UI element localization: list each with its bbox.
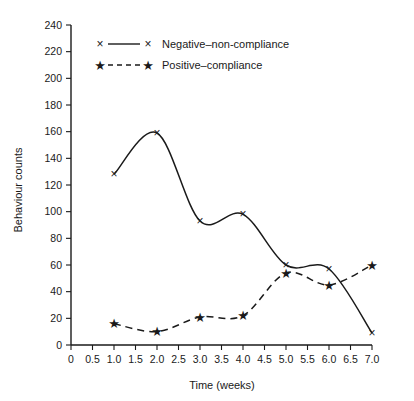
- x-tick-label: 2.0: [150, 353, 165, 365]
- chart-legend: ××Negative–non-compliance★★Positive–comp…: [94, 37, 289, 73]
- x-tick-label: 5.5: [300, 353, 315, 365]
- x-axis-title: Time (weeks): [189, 379, 255, 391]
- series-layer: ×××××××★★★★★★★: [108, 126, 378, 340]
- data-point-marker: ×: [368, 326, 375, 340]
- legend-label: Positive–compliance: [162, 59, 262, 71]
- x-tick-label: 6.5: [343, 353, 358, 365]
- x-tick-label: 5.0: [279, 353, 294, 365]
- data-point-marker: ★: [194, 310, 206, 325]
- chart-container: 020406080100120140160180200220240 00.51.…: [0, 0, 414, 401]
- legend-label: Negative–non-compliance: [162, 38, 289, 50]
- x-tick-label: 7.0: [365, 353, 380, 365]
- y-axis-tick-labels: 020406080100120140160180200220240: [44, 19, 62, 351]
- y-tick-label: 220: [44, 45, 62, 57]
- y-tick-label: 0: [56, 339, 62, 351]
- data-point-marker: ★: [151, 324, 163, 339]
- legend-entry: ××Negative–non-compliance: [96, 37, 289, 51]
- legend-marker-left: ×: [96, 37, 103, 51]
- y-tick-label: 200: [44, 72, 62, 84]
- x-axis-tick-labels: 00.51.01.52.02.53.03.54.04.55.05.56.06.5…: [68, 353, 379, 365]
- data-point-marker: ★: [280, 266, 292, 281]
- data-point-marker: ★: [108, 316, 120, 331]
- x-tick-label: 0: [68, 353, 74, 365]
- data-point-marker: ×: [153, 126, 160, 140]
- data-point-marker: ×: [239, 207, 246, 221]
- series-2: ★★★★★★★: [108, 258, 378, 340]
- x-tick-label: 2.5: [171, 353, 186, 365]
- x-axis-ticks: [71, 345, 372, 350]
- x-tick-label: 4.5: [257, 353, 272, 365]
- x-tick-label: 3.0: [193, 353, 208, 365]
- data-point-marker: ★: [237, 308, 249, 323]
- x-tick-label: 1.5: [128, 353, 143, 365]
- y-axis-title: Behaviour counts: [12, 147, 24, 232]
- y-tick-label: 160: [44, 125, 62, 137]
- series-line: [114, 132, 372, 333]
- y-tick-label: 180: [44, 99, 62, 111]
- behaviour-counts-line-chart: 020406080100120140160180200220240 00.51.…: [0, 0, 414, 401]
- x-tick-label: 3.5: [214, 353, 229, 365]
- y-axis-ticks: [66, 25, 71, 345]
- y-tick-label: 120: [44, 179, 62, 191]
- x-tick-label: 0.5: [85, 353, 100, 365]
- y-tick-label: 140: [44, 152, 62, 164]
- legend-entry: ★★Positive–compliance: [94, 58, 262, 73]
- data-point-marker: ★: [323, 278, 335, 293]
- data-point-marker: ×: [325, 262, 332, 276]
- legend-marker-right: ★: [142, 58, 154, 73]
- x-tick-label: 6.0: [322, 353, 337, 365]
- legend-marker-right: ×: [144, 37, 151, 51]
- legend-marker-left: ★: [94, 58, 106, 73]
- y-tick-label: 20: [50, 312, 62, 324]
- y-tick-label: 240: [44, 19, 62, 31]
- y-tick-label: 100: [44, 205, 62, 217]
- x-tick-label: 4.0: [236, 353, 251, 365]
- data-point-marker: ×: [196, 214, 203, 228]
- x-tick-label: 1.0: [107, 353, 122, 365]
- y-tick-label: 60: [50, 259, 62, 271]
- data-point-marker: ×: [110, 167, 117, 181]
- data-point-marker: ★: [366, 258, 378, 273]
- y-tick-label: 80: [50, 232, 62, 244]
- y-tick-label: 40: [50, 285, 62, 297]
